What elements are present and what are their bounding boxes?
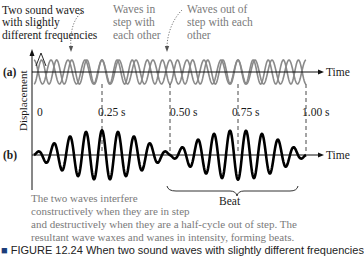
time-marker-0-75: 0.75 s bbox=[232, 106, 259, 119]
two-waves-label-line3: different frequencies bbox=[2, 29, 97, 42]
in-step-arrow-icon bbox=[69, 46, 73, 52]
time-axis-b-arrow-icon bbox=[318, 153, 324, 158]
caption-bullet-icon: ■ bbox=[1, 244, 11, 256]
two-waves-label-line2: with slightly bbox=[2, 16, 60, 29]
displacement-axis-arrow-icon bbox=[30, 49, 35, 56]
time-axis-a-label: Time bbox=[326, 66, 350, 79]
in-step-label-line2: step with bbox=[113, 16, 155, 29]
time-marker-0-50: 0.50 s bbox=[170, 106, 197, 119]
out-of-step-label-line1: Waves out of bbox=[187, 3, 247, 16]
beat-label: Beat bbox=[219, 195, 240, 208]
time-marker-1-00: 1.00 s bbox=[302, 106, 329, 119]
origin-label: 0 bbox=[37, 106, 43, 119]
out-of-step-label-line3: other bbox=[187, 29, 211, 42]
out-of-step-pointer bbox=[167, 10, 182, 48]
caption-text: FIGURE 12.24 When two sound waves with s… bbox=[11, 244, 364, 256]
out-of-step-arrow-icon bbox=[165, 46, 169, 52]
explanation-line2: constructively when they are in step bbox=[31, 205, 190, 218]
explanation-line3: and destructively when they are a half-c… bbox=[31, 218, 297, 231]
explanation-line4: resultant wave waxes and wanes in intens… bbox=[31, 231, 294, 244]
in-step-label-line3: each other bbox=[113, 29, 161, 42]
out-of-step-label-line2: step with each bbox=[187, 16, 253, 29]
in-step-label-line1: Waves in bbox=[113, 3, 155, 16]
figure-caption: ■ FIGURE 12.24 When two sound waves with… bbox=[1, 244, 364, 256]
time-axis-b-label: Time bbox=[326, 149, 350, 162]
panel-a-label: (a) bbox=[3, 66, 16, 79]
panel-b-label: (b) bbox=[3, 149, 17, 162]
resultant-wave bbox=[34, 130, 306, 179]
displacement-axis-label: Displacement bbox=[17, 71, 30, 131]
explanation-line1: The two waves interfere bbox=[31, 192, 138, 205]
time-axis-a-arrow-icon bbox=[318, 70, 324, 75]
time-marker-0-25: 0.25 s bbox=[98, 106, 125, 119]
